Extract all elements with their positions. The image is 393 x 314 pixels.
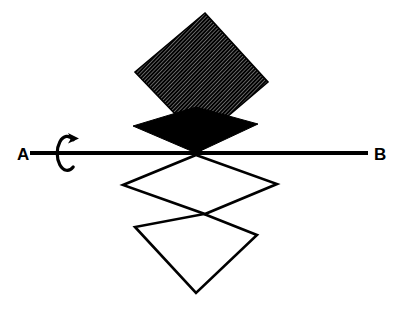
label-a: A bbox=[17, 145, 29, 164]
lower-outlined-square bbox=[135, 214, 257, 293]
label-b: B bbox=[374, 145, 386, 164]
lower-outlined-flat-diamond bbox=[123, 155, 277, 214]
rotation-diagram: A B bbox=[0, 0, 393, 314]
figure-canvas: A B bbox=[0, 0, 393, 314]
